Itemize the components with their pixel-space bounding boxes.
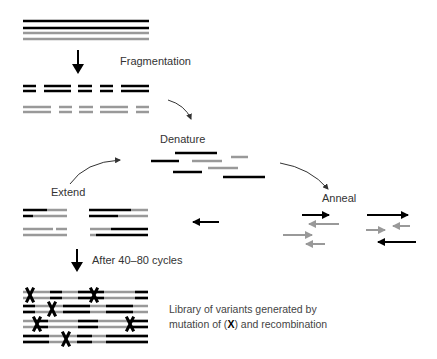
label-extend: Extend [51,186,85,198]
curved-arrow-icon [168,100,191,119]
variant-library [23,292,148,342]
curved-arrow-icon [70,160,120,184]
parent-genes [23,21,149,39]
label-fragmentation: Fragmentation [120,55,191,67]
library-caption: Library of variants generated by mutatio… [169,302,327,332]
caption-text-pre: mutation of ( [169,318,227,330]
denatured-strands [151,153,265,177]
arrow-down-icon [71,249,83,272]
library-caption-line1: Library of variants generated by [169,302,327,317]
label-after-cycles: After 40–80 cycles [92,254,183,266]
label-denature: Denature [160,133,205,145]
fragments [23,86,149,112]
caption-text-post: ) and recombination [234,318,327,330]
library-caption-line2: mutation of (X) and recombination [169,317,327,332]
annealed-primers [283,215,416,244]
arrow-down-icon [72,50,84,74]
label-anneal: Anneal [322,192,356,204]
curved-arrow-icon [280,163,328,189]
extended-strands [23,210,148,235]
